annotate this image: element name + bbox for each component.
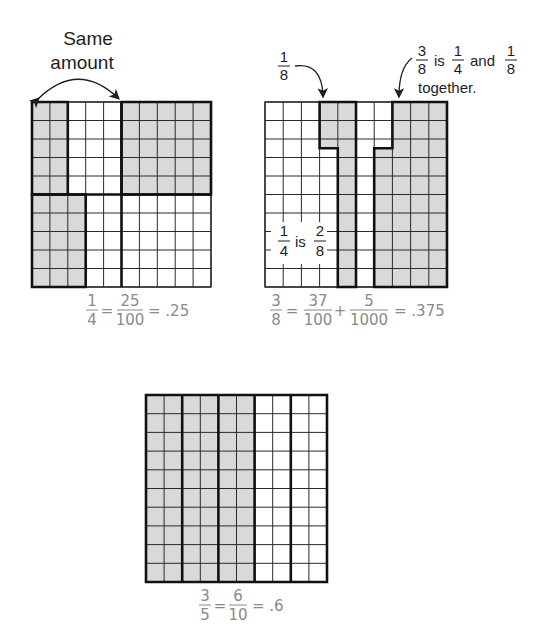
- decimal-value: = .25: [148, 302, 189, 320]
- decimal-value: = .375: [394, 302, 445, 320]
- together-word: together.: [418, 79, 476, 96]
- fraction-denominator: 8: [271, 311, 281, 329]
- equals-sign: =: [286, 302, 299, 320]
- is-word: is: [295, 233, 306, 250]
- same-amount-annotation: Same amount: [38, 28, 118, 99]
- fraction-numerator: 1: [454, 42, 462, 59]
- equation-quarter: 1 4 = 25 100 = .25: [86, 292, 189, 329]
- fraction-numerator: 1: [507, 42, 515, 59]
- fraction-numerator: 3: [200, 587, 210, 605]
- panel-three-eighths: 1 8 3 8 is 1 4 and 1 8 together. 3 8 = 3…: [265, 42, 517, 329]
- fraction-denominator: 8: [280, 66, 288, 83]
- shaded-region: [320, 102, 338, 148]
- fraction-denominator: 1000: [350, 311, 388, 329]
- fraction-numerator: 37: [308, 292, 327, 310]
- and-word: and: [470, 52, 495, 69]
- decimal-value: = .6: [252, 597, 284, 615]
- panel-quarter: Same amount 1 4 = 25 100 = .25: [32, 28, 211, 329]
- equals-sign: =: [214, 597, 227, 615]
- equation-three-fifths: 3 5 = 6 10 = .6: [199, 587, 284, 624]
- shaded-region: [374, 148, 392, 287]
- one-eighth-annotation: 1 8: [278, 48, 323, 96]
- fraction-denominator: 5: [200, 606, 210, 624]
- double-arrow-icon: [38, 79, 118, 99]
- fraction-denominator: 8: [316, 242, 324, 259]
- hundred-grid-quarter: [32, 102, 211, 287]
- fraction-denominator: 8: [418, 60, 426, 77]
- shaded-region: [122, 102, 212, 195]
- fraction-denominator: 8: [507, 60, 515, 77]
- fraction-denominator: 4: [87, 311, 97, 329]
- fraction-grids-diagram: Same amount 1 4 = 25 100 = .25 1 8 3 8: [0, 0, 551, 632]
- fraction-denominator: 100: [304, 311, 333, 329]
- hundred-grid-three-fifths: [146, 395, 327, 582]
- fraction-numerator: 2: [316, 222, 324, 239]
- fraction-numerator: 1: [280, 48, 288, 65]
- inner-label: 1 4 is 2 8: [271, 222, 327, 264]
- panel-three-fifths: 3 5 = 6 10 = .6: [146, 395, 327, 624]
- fraction-denominator: 4: [280, 242, 288, 259]
- arrow-icon: [399, 58, 412, 96]
- fraction-denominator: 10: [228, 606, 247, 624]
- arrow-icon: [295, 66, 323, 96]
- fraction-numerator: 3: [271, 292, 281, 310]
- plus-sign: +: [334, 302, 347, 320]
- equation-three-eighths: 3 8 = 37 100 + 5 1000 = .375: [270, 292, 445, 329]
- annotation-line2: amount: [50, 52, 114, 73]
- fraction-numerator: 25: [120, 292, 139, 310]
- fraction-numerator: 1: [87, 292, 97, 310]
- fraction-numerator: 3: [418, 42, 426, 59]
- combined-annotation: 3 8 is 1 4 and 1 8 together.: [399, 42, 517, 96]
- is-word: is: [434, 52, 445, 69]
- fraction-denominator: 4: [454, 60, 462, 77]
- fraction-numerator: 1: [280, 222, 288, 239]
- fraction-numerator: 6: [233, 587, 243, 605]
- shaded-region: [32, 195, 86, 288]
- fraction-numerator: 5: [364, 292, 374, 310]
- annotation-line1: Same: [63, 28, 113, 49]
- equals-sign: =: [101, 302, 114, 320]
- fraction-denominator: 100: [116, 311, 145, 329]
